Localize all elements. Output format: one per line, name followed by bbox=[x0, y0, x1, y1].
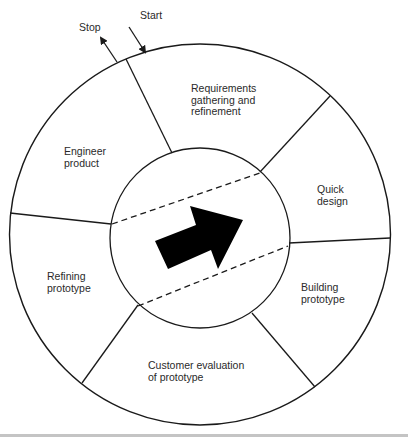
phase-label-line: Customer evaluation bbox=[148, 360, 244, 372]
dashed-line-top bbox=[112, 173, 260, 224]
phase-label-line: of prototype bbox=[148, 372, 244, 384]
phase-label-line: product bbox=[64, 158, 106, 170]
phase-label-line: prototype bbox=[301, 294, 345, 306]
phase-label-requirements: Requirements gathering and refinement bbox=[191, 83, 256, 118]
phase-label-line: Engineer bbox=[64, 146, 106, 158]
right-up-arrow-icon bbox=[155, 206, 243, 269]
phase-label-customer-evaluation: Customer evaluation of prototype bbox=[148, 360, 244, 383]
separator-building-customer bbox=[252, 313, 315, 387]
phase-label-line: Quick bbox=[317, 184, 348, 196]
phase-label-line: Requirements bbox=[191, 83, 256, 95]
phase-label-line: Building bbox=[301, 282, 345, 294]
phase-label-line: refinement bbox=[191, 106, 256, 118]
separator-requirements-quick-design bbox=[260, 96, 330, 172]
phase-label-line: design bbox=[317, 196, 348, 208]
phase-label-line: prototype bbox=[47, 283, 91, 295]
stop-label: Stop bbox=[79, 22, 101, 34]
separator-refining-engineer bbox=[10, 213, 111, 224]
separator-quick-design-building bbox=[289, 238, 390, 243]
stop-arrow-icon bbox=[101, 38, 117, 62]
start-arrow-icon bbox=[129, 27, 145, 52]
phase-label-line: Refining bbox=[47, 271, 91, 283]
phase-label-building-prototype: Building prototype bbox=[301, 282, 345, 305]
phase-label-engineer-product: Engineer product bbox=[64, 146, 106, 169]
phase-label-refining-prototype: Refining prototype bbox=[47, 271, 91, 294]
start-label: Start bbox=[140, 10, 162, 22]
separator-customer-refining bbox=[82, 305, 138, 383]
phase-label-quick-design: Quick design bbox=[317, 184, 348, 207]
separator-engineer-requirements bbox=[126, 59, 172, 153]
